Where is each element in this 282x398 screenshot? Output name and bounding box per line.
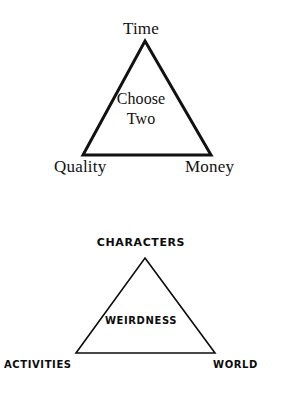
triangle-top-vertex-label-quality: Quality [54,158,106,175]
triangle-top-center-label-line1: Choose [117,90,166,107]
triangle-top-center-label: Choose Two [0,89,282,128]
triangle-top-center-label-line2: Two [0,109,282,129]
triangle-top-vertex-label-money: Money [185,158,234,175]
triangle-outline-bottom [76,258,215,353]
triangle-bottom-vertex-label-world: World [213,356,258,370]
triangle-bottom-vertex-label-characters: Characters [0,234,282,249]
triangle-top-vertex-label-time: Time [0,20,282,37]
triangle-bottom-vertex-label-activities: Activities [4,356,72,370]
triangle-bottom-center-label: Weirdness [0,312,282,326]
diagram-canvas: Time Choose Two Quality Money Characters… [0,0,282,398]
project-management-triangle-shape [0,0,282,398]
